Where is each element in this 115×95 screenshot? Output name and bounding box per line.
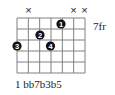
finger-dot: 3 — [12, 41, 21, 50]
finger-dot: 2 — [35, 30, 44, 39]
finger-dot: 1 — [56, 19, 65, 28]
finger-number: 1 — [59, 20, 63, 29]
finger-number: 3 — [15, 42, 19, 51]
muted-x-icon: × — [81, 4, 87, 16]
interval-labels: 1 bb7b3b5 — [15, 78, 62, 90]
muted-x-icon: × — [25, 4, 31, 16]
chord-diagram: ××× 1234 7fr 1 bb7b3b5 — [0, 0, 115, 95]
finger-number: 2 — [38, 31, 42, 40]
finger-dots: 1234 — [12, 19, 65, 50]
muted-string-markers: ××× — [25, 4, 87, 16]
chord-chart: ××× 1234 7fr 1 bb7b3b5 — [0, 0, 115, 95]
muted-x-icon: × — [70, 4, 76, 16]
fret-position-label: 7fr — [93, 20, 106, 32]
finger-dot: 4 — [46, 41, 55, 50]
